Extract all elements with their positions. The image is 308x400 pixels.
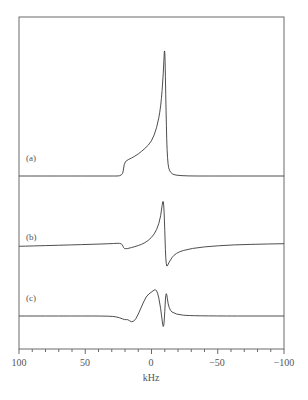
tick-label-0: 0 [149, 357, 154, 368]
x-axis-ticks [19, 349, 284, 354]
series-label-b: (b) [26, 232, 37, 242]
x-axis-label: kHz [143, 372, 160, 383]
tick-label-100: 100 [12, 357, 27, 368]
plot-frame [19, 17, 284, 349]
tick-label-neg50: −50 [209, 357, 225, 368]
series-label-a: (a) [26, 153, 36, 163]
spectrum-trace-a [19, 51, 284, 176]
spectrum-trace-c [19, 290, 284, 327]
chart-canvas: 100 50 0 −50 −100 kHz (a) (b) (c) [0, 0, 308, 400]
series-label-c: (c) [26, 293, 36, 303]
nmr-spectra-figure: 100 50 0 −50 −100 kHz (a) (b) (c) [0, 0, 308, 400]
tick-label-neg100: −100 [274, 357, 295, 368]
tick-label-50: 50 [80, 357, 90, 368]
spectrum-trace-b [19, 201, 284, 266]
x-axis-tick-labels: 100 50 0 −50 −100 [12, 357, 295, 368]
